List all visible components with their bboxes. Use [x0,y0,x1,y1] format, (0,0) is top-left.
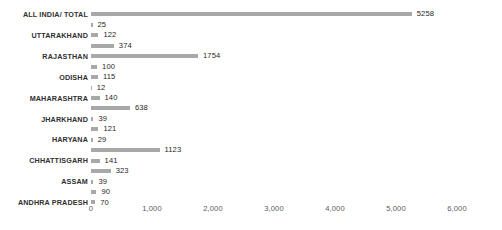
bar [91,180,93,184]
bar [91,96,100,100]
bar [91,169,111,173]
bar [91,138,93,142]
x-axis: 01,0002,0003,0004,0005,0006,000 [0,200,502,230]
bar [91,159,100,163]
bar [91,117,93,121]
bar [91,148,160,152]
x-axis-tick-label: 1,000 [122,204,182,213]
bar [91,106,130,110]
bar-value-label: 374 [119,40,132,51]
bar-value-label: 1123 [165,144,182,155]
bar [91,75,98,79]
bar-value-label: 29 [98,134,107,145]
bar [91,12,412,16]
x-axis-tick-label: 4,000 [305,204,365,213]
plot-area: ALL INDIA/ TOTAL525825UTTARAKHAND122374R… [0,0,502,200]
bar [91,65,97,69]
bar [91,23,93,27]
bar [91,33,98,37]
bar-chart: ALL INDIA/ TOTAL525825UTTARAKHAND122374R… [0,0,502,230]
x-axis-tick-label: 2,000 [183,204,243,213]
x-axis-tick-label: 6,000 [427,204,487,213]
bar [91,190,96,194]
x-axis-tick-label: 0 [61,204,121,213]
bar-value-label: 122 [103,29,116,40]
x-axis-tick-label: 5,000 [366,204,426,213]
bar [91,127,98,131]
bar-value-label: 140 [105,92,118,103]
bar-value-label: 5258 [417,8,434,19]
bar-value-label: 638 [135,102,148,113]
x-axis-tick-label: 3,000 [244,204,304,213]
bar [91,54,198,58]
bar [91,86,92,90]
bar [91,44,114,48]
bar-value-label: 323 [116,165,129,176]
bar-value-label: 1754 [203,50,220,61]
